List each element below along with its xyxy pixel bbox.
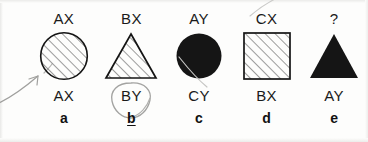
option-d-letter[interactable]: d: [262, 110, 271, 126]
option-a-letter[interactable]: a: [60, 110, 68, 126]
option-e-label-top: ?: [330, 10, 339, 27]
option-e-letter[interactable]: e: [330, 110, 338, 126]
option-d-shape-hatched-square: [239, 31, 295, 81]
answer-options-row: AX AX a BX: [30, 0, 368, 142]
option-d-label-bottom: BX: [256, 87, 277, 104]
option-c-label-bottom: CY: [188, 87, 210, 104]
option-c-shape-solid-circle: [171, 31, 227, 81]
option-b-letter[interactable]: b: [127, 110, 136, 126]
option-c-label-top: AY: [189, 10, 209, 27]
option-e-shape-solid-triangle: [306, 31, 362, 81]
option-d-label-top: CX: [256, 10, 278, 27]
option-d-label-top-text: CX: [256, 10, 278, 27]
answer-option-b[interactable]: BX BY b: [98, 0, 166, 142]
option-a-label-bottom: AX: [53, 87, 74, 104]
answer-option-e[interactable]: ? AY e: [300, 0, 368, 142]
option-b-shape-hatched-triangle: [103, 31, 159, 81]
answer-option-d[interactable]: CX BX d: [233, 0, 301, 142]
option-e-label-bottom: AY: [324, 87, 344, 104]
option-c-letter[interactable]: c: [195, 110, 203, 126]
option-b-label-top: BX: [121, 10, 142, 27]
answer-option-c[interactable]: AY CY c: [165, 0, 233, 142]
option-b-label-bottom: BY: [121, 87, 142, 104]
option-a-shape-hatched-circle: [36, 31, 92, 81]
worksheet-page: AX AX a BX: [0, 0, 368, 142]
scan-edge-left: [0, 0, 3, 142]
option-a-label-top: AX: [53, 10, 74, 27]
answer-option-a[interactable]: AX AX a: [30, 0, 98, 142]
option-b-label-bottom-text: BY: [121, 87, 142, 104]
